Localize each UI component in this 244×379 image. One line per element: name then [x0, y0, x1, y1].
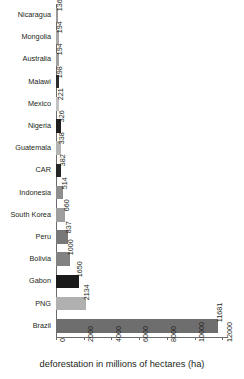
category-label: Nigeria: [0, 122, 51, 129]
category-label: Bolivia: [0, 255, 51, 262]
x-tick-label: 6000: [142, 326, 149, 342]
bar-row: Indonesia514: [56, 182, 228, 204]
bar-row: CAR382: [56, 159, 228, 181]
x-tick-label: 8000: [170, 326, 177, 342]
value-label: 1000: [67, 239, 74, 255]
category-label: Brazil: [0, 322, 51, 329]
value-label: 136: [55, 0, 62, 11]
deforestation-bar-chart: Nicaragua136Mongolia194Australia194Malaw…: [0, 0, 244, 379]
bar-row: Nigeria326: [56, 115, 228, 137]
value-label: 194: [56, 44, 63, 56]
category-label: Malawi: [0, 78, 51, 85]
category-label: PNG: [0, 300, 51, 307]
category-label: Peru: [0, 233, 51, 240]
value-label: 198: [56, 66, 63, 78]
value-label: 194: [56, 21, 63, 33]
value-label: 837: [65, 221, 72, 233]
category-label: Mongolia: [0, 33, 51, 40]
bar-row: South Korea660: [56, 204, 228, 226]
value-label: 11681: [215, 303, 222, 322]
x-axis-title: deforestation in millions of hectares (h…: [0, 360, 244, 369]
x-tick: [84, 337, 85, 340]
x-tick-label: 10000: [198, 322, 205, 342]
x-tick: [222, 337, 223, 340]
value-label: 338: [58, 132, 65, 144]
category-label: Guatemala: [0, 144, 51, 151]
plot-area: Nicaragua136Mongolia194Australia194Malaw…: [56, 4, 228, 337]
x-tick: [195, 337, 196, 340]
x-tick: [111, 337, 112, 340]
value-label: 1650: [76, 262, 83, 278]
category-label: Mexico: [0, 100, 51, 107]
category-label: CAR: [0, 166, 51, 173]
category-label: Gabon: [0, 277, 51, 284]
x-tick: [56, 337, 57, 340]
x-tick-label: 4000: [115, 326, 122, 342]
x-tick-label: 2000: [87, 326, 94, 342]
category-label: South Korea: [0, 211, 51, 218]
value-label: 326: [58, 110, 65, 122]
x-tick: [167, 337, 168, 340]
category-label: Indonesia: [0, 189, 51, 196]
bar: [56, 319, 218, 333]
value-label: 382: [59, 155, 66, 167]
x-tick-label: 12000: [226, 322, 233, 342]
bar-row: Australia194: [56, 48, 228, 70]
category-label: Nicaragua: [0, 11, 51, 18]
bar-row: Malawi198: [56, 71, 228, 93]
category-label: Australia: [0, 55, 51, 62]
bar-row: Mongolia194: [56, 26, 228, 48]
bar-row: Nicaragua136: [56, 4, 228, 26]
bar-row: PNG2134: [56, 293, 228, 315]
value-label: 2134: [83, 284, 90, 300]
bar-row: Mexico221: [56, 93, 228, 115]
x-tick-label: 0: [59, 338, 66, 342]
value-label: 221: [56, 88, 63, 100]
bar-row: Guatemala338: [56, 137, 228, 159]
value-label: 660: [62, 199, 69, 211]
bar-row: Peru837: [56, 226, 228, 248]
value-label: 514: [60, 177, 67, 189]
